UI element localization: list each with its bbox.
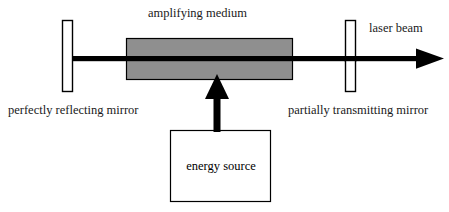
label-perfectly-reflecting-mirror: perfectly reflecting mirror xyxy=(8,104,139,117)
left-mirror-rect xyxy=(63,21,73,92)
label-amplifying-medium: amplifying medium xyxy=(148,7,247,20)
laser-diagram: amplifying medium laser beam perfectly r… xyxy=(0,0,449,212)
label-partially-transmitting-mirror: partially transmitting mirror xyxy=(288,104,428,117)
label-energy-source: energy source xyxy=(171,130,271,202)
laser-beam-over-right-mirror xyxy=(344,56,357,61)
label-laser-beam: laser beam xyxy=(369,22,423,35)
pump-arrow-shaft xyxy=(214,95,221,132)
laser-beam-arrowhead xyxy=(416,49,444,69)
laser-beam-line xyxy=(65,56,421,61)
